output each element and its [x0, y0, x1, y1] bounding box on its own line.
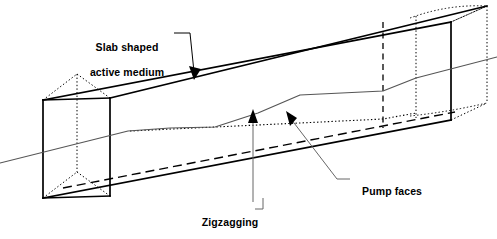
label-slab-line2: active medium: [90, 66, 164, 78]
hidden-edge-right-bottom-curve: [410, 103, 487, 116]
label-slab-shaped-active-medium: Slab shaped active medium: [68, 28, 174, 91]
label-zigzag-line1: Zigzagging: [202, 216, 258, 228]
leader-slab-line: [190, 33, 194, 72]
leaders-group: [174, 33, 350, 209]
hidden-edge-bottom-right-diagonal: [451, 103, 487, 120]
label-slab-line1: Slab shaped: [96, 41, 159, 53]
arrowhead-pump: [286, 111, 297, 126]
internal-divider-group: [383, 16, 416, 128]
label-zigzagging-beam: Zigzagging beam: [182, 203, 266, 239]
diagram-canvas: Slab shaped active medium Pump faces Zig…: [0, 0, 497, 239]
label-pump-text: Pump faces: [362, 185, 422, 197]
label-pump-faces: Pump faces: [350, 172, 422, 210]
